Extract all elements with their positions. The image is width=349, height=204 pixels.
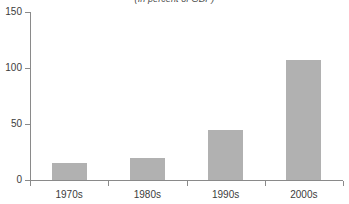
y-tick-mark (25, 68, 30, 69)
x-tick-mark (265, 181, 266, 186)
y-tick-label: 0 (0, 174, 22, 185)
y-tick-mark (25, 12, 30, 13)
bar-1970s (52, 163, 87, 180)
bar-2000s (286, 60, 321, 180)
bar-chart: (In percent of GDP) 050100150 1970s1980s… (0, 0, 349, 204)
y-tick-label: 150 (0, 6, 22, 17)
x-tick-mark (108, 181, 109, 186)
x-tick-mark (343, 181, 344, 186)
y-tick-label: 50 (0, 118, 22, 129)
y-tick-label: 100 (0, 62, 22, 73)
chart-title: (In percent of GDP) (0, 0, 349, 4)
x-tick-mark (187, 181, 188, 186)
y-tick-mark (25, 124, 30, 125)
x-tick-label-1970s: 1970s (30, 189, 108, 200)
x-tick-mark (30, 181, 31, 186)
y-axis-line (30, 12, 31, 180)
x-tick-label-1980s: 1980s (108, 189, 186, 200)
bar-1990s (208, 130, 243, 180)
x-tick-label-2000s: 2000s (265, 189, 343, 200)
bar-1980s (130, 158, 165, 180)
x-tick-label-1990s: 1990s (187, 189, 265, 200)
